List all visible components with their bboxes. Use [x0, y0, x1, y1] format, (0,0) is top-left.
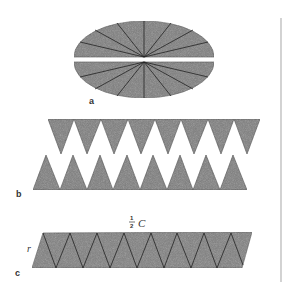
circumference-symbol: C: [138, 217, 146, 229]
half-fraction-numerator: 1: [130, 215, 134, 221]
circle-area-diagram: a b 1 2 C r c: [0, 0, 287, 289]
radius-symbol: r: [27, 243, 31, 254]
panel-b-bottom-row: [33, 155, 247, 190]
panel-b-label: b: [16, 189, 22, 199]
panel-c-label: c: [15, 268, 20, 278]
sector-lines: [80, 21, 208, 98]
panel-a-label: a: [89, 96, 95, 106]
panel-b-top-row: [48, 119, 260, 154]
half-fraction-denominator: 2: [130, 223, 134, 229]
